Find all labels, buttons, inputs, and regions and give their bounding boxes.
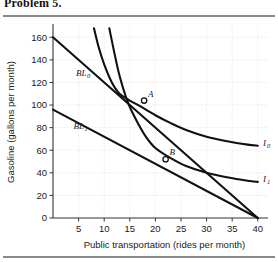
y-tick-label: 100	[31, 99, 47, 110]
x-tick-label: 5	[76, 223, 81, 234]
x-axis-title: Public transportation (rides per month)	[84, 239, 246, 250]
x-tick-label: 25	[176, 223, 187, 234]
tick-labels-group: 020406080100120140160510152025303540	[31, 32, 263, 234]
gridlines-group	[53, 26, 268, 218]
x-tick-label: 40	[252, 223, 263, 234]
series-I_0	[94, 28, 258, 145]
series-labels-group: BL0BL1I0I1	[73, 68, 270, 186]
x-tick-label: 35	[227, 223, 238, 234]
x-tick-label: 15	[124, 223, 135, 234]
y-axis-title: Gasoline (gallons per month)	[5, 61, 16, 183]
y-tick-label: 140	[31, 54, 47, 65]
y-tick-label: 60	[36, 145, 47, 156]
series-label-sub-BL_0: 0	[87, 72, 91, 79]
point-A-label: A	[147, 89, 154, 99]
point-B-label: B	[170, 147, 176, 157]
series-label-sub-I_1: 1	[267, 178, 270, 185]
series-label-BL_1: BL	[73, 121, 84, 131]
y-tick-label: 160	[31, 32, 47, 43]
figure-container: Problem 5. 02040608010012014016051015202…	[0, 0, 278, 262]
series-label-BL_0: BL	[76, 68, 87, 78]
y-tick-label: 0	[42, 212, 47, 223]
point-A-marker	[141, 98, 146, 103]
y-tick-label: 40	[36, 167, 47, 178]
x-tick-label: 20	[150, 223, 161, 234]
x-tick-label: 30	[201, 223, 212, 234]
series-label-sub-I_0: 0	[267, 142, 271, 149]
series-label-sub-BL_1: 1	[84, 125, 87, 132]
axes-group	[53, 24, 268, 218]
chart-plot: 020406080100120140160510152025303540 BL0…	[0, 0, 278, 262]
y-tick-label: 80	[36, 122, 47, 133]
y-tick-label: 20	[36, 190, 47, 201]
x-tick-label: 10	[99, 223, 110, 234]
y-tick-label: 120	[31, 77, 47, 88]
point-B-marker	[163, 157, 168, 162]
